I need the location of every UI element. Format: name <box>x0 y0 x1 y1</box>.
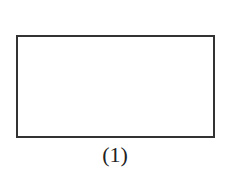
rectangle-shape <box>16 35 215 138</box>
figure-caption: (1) <box>0 140 230 170</box>
